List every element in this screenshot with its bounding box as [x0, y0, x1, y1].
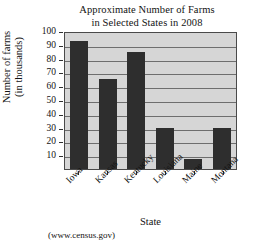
source-note: (www.census.gov) — [48, 230, 115, 240]
y-tick-mark — [59, 156, 63, 157]
chart-title: Approximate Number of Farms in Selected … — [48, 4, 246, 29]
bar-kentucky — [127, 52, 145, 169]
y-tick-mark — [59, 32, 63, 33]
y-tick-mark — [59, 142, 63, 143]
chart-title-line-2: in Selected States in 2008 — [48, 17, 246, 30]
y-tick-mark — [59, 115, 63, 116]
bar-iowa — [70, 41, 88, 169]
bar-series — [65, 33, 236, 169]
y-tick-label: 50 — [34, 96, 56, 106]
y-tick-mark — [59, 46, 63, 47]
y-tick-mark — [59, 87, 63, 88]
y-axis-title-line-2: (in thousands) — [13, 8, 25, 126]
y-tick-label: 90 — [34, 41, 56, 51]
chart-title-line-1: Approximate Number of Farms — [48, 4, 246, 17]
y-tick-mark — [59, 101, 63, 102]
y-tick-label: 70 — [34, 68, 56, 78]
y-tick-label: 60 — [34, 82, 56, 92]
y-tick-label: 10 — [34, 151, 56, 161]
y-axis-title: Number of farms (in thousands) — [1, 8, 31, 126]
x-axis-title: State — [64, 216, 237, 227]
y-tick-label: 30 — [34, 124, 56, 134]
y-tick-label: 80 — [34, 55, 56, 65]
plot-area — [64, 32, 237, 170]
y-tick-label: 20 — [34, 137, 56, 147]
y-tick-label: 100 — [34, 27, 56, 37]
y-tick-mark — [59, 129, 63, 130]
y-axis-title-line-1: Number of farms — [1, 8, 13, 126]
bar-chart-figure: Approximate Number of Farms in Selected … — [0, 0, 258, 246]
y-tick-mark — [59, 73, 63, 74]
y-tick-label: 40 — [34, 110, 56, 120]
bar-kansas — [99, 79, 117, 169]
y-tick-mark — [59, 60, 63, 61]
